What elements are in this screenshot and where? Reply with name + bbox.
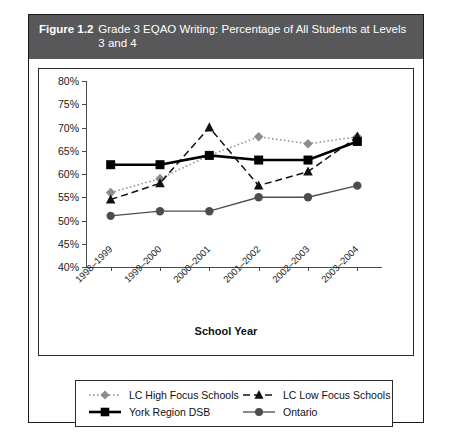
legend-label: York Region DSB — [129, 406, 210, 418]
legend-marker-triangle-icon — [242, 389, 276, 401]
y-axis-tick — [82, 128, 86, 129]
y-axis-tick — [82, 197, 86, 198]
x-axis-title: School Year — [39, 325, 413, 337]
y-axis-tick — [82, 151, 86, 152]
x-axis-tick — [259, 267, 260, 271]
legend-item-lc-high-focus-schools: LC High Focus Schools — [80, 389, 234, 401]
series-lc-low-focus-schools — [106, 122, 362, 203]
chart-panel: 80%75%70%65%60%55%50%45%40% 1998–1999199… — [38, 68, 414, 356]
x-axis-tick — [308, 267, 309, 271]
y-axis-tick-label: 50% — [58, 215, 79, 227]
y-axis-tick-label: 45% — [58, 238, 79, 250]
legend-marker-diamond-icon — [88, 389, 122, 401]
figure-title-bar: Figure 1.2 Grade 3 EQAO Writing: Percent… — [29, 15, 423, 59]
legend-label: LC Low Focus Schools — [283, 389, 390, 401]
y-axis-tick-label: 60% — [58, 168, 79, 180]
x-axis-tick — [160, 267, 161, 271]
series-lines — [86, 81, 382, 267]
figure-container: Figure 1.2 Grade 3 EQAO Writing: Percent… — [28, 14, 424, 423]
legend-item-york-region-dsb: York Region DSB — [80, 406, 234, 418]
legend-row: York Region DSBOntario — [80, 403, 388, 420]
series-ontario — [106, 181, 361, 220]
y-axis-tick — [82, 104, 86, 105]
figure-title: Grade 3 EQAO Writing: Percentage of All … — [98, 22, 413, 50]
y-axis-tick — [82, 174, 86, 175]
x-axis-tick — [357, 267, 358, 271]
y-axis-tick-label: 40% — [58, 261, 79, 273]
legend-label: LC High Focus Schools — [129, 389, 239, 401]
series-york-region-dsb — [106, 137, 362, 169]
y-axis-tick-label: 75% — [58, 98, 79, 110]
y-axis-tick-label: 55% — [58, 191, 79, 203]
legend-label: Ontario — [283, 406, 317, 418]
y-axis-tick-label: 80% — [58, 75, 79, 87]
figure-number: Figure 1.2 — [39, 22, 93, 36]
legend-marker-square-icon — [88, 406, 122, 418]
y-axis-tick-label: 70% — [58, 122, 79, 134]
chart-legend: LC High Focus SchoolsLC Low Focus School… — [75, 380, 393, 427]
legend-row: LC High Focus SchoolsLC Low Focus School… — [80, 386, 388, 403]
y-axis-tick-label: 65% — [58, 145, 79, 157]
x-axis-tick — [111, 267, 112, 271]
y-axis-tick — [82, 81, 86, 82]
plot-area: 80%75%70%65%60%55%50%45%40% 1998–1999199… — [86, 81, 382, 267]
y-axis-tick — [82, 221, 86, 222]
legend-marker-circle-icon — [242, 406, 276, 418]
x-axis-tick — [209, 267, 210, 271]
legend-item-lc-low-focus-schools: LC Low Focus Schools — [234, 389, 388, 401]
y-axis-line — [86, 81, 87, 267]
y-axis-tick — [82, 244, 86, 245]
legend-item-ontario: Ontario — [234, 406, 388, 418]
